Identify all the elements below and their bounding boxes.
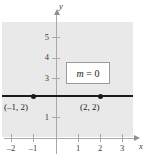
x-axis-label: x	[139, 141, 143, 151]
y-tick-mark	[52, 37, 60, 38]
x-tick-mark	[33, 134, 34, 142]
y-axis-line	[56, 14, 57, 154]
y-tick-mark	[52, 58, 60, 59]
slope-variable: m	[77, 68, 84, 79]
data-point-label: (–1, 2)	[4, 102, 28, 112]
slope-value: = 0	[84, 68, 100, 79]
y-tick-label: 1	[37, 113, 49, 122]
x-tick-mark	[100, 134, 101, 142]
y-tick-label: 5	[37, 33, 49, 42]
y-tick-label: 3	[37, 74, 49, 83]
y-tick-mark	[52, 117, 60, 118]
slope-annotation-text: m = 0	[77, 68, 100, 79]
x-tick-mark	[122, 134, 123, 142]
function-line	[2, 95, 133, 97]
x-tick-label: –2	[4, 144, 18, 153]
x-tick-mark	[78, 134, 79, 142]
data-point-label: (2, 2)	[80, 102, 100, 112]
x-tick-mark	[11, 134, 12, 142]
x-tick-label: 1	[71, 144, 85, 153]
x-tick-label: 2	[93, 144, 107, 153]
x-tick-label: 3	[115, 144, 129, 153]
y-tick-label: 4	[37, 53, 49, 62]
graph-figure: y x 5 4 3 1 –2 –1 1 2 3 (–1, 2) (2, 2) m…	[0, 0, 147, 160]
x-axis-line	[4, 138, 136, 139]
y-tick-mark	[52, 78, 60, 79]
data-point	[31, 94, 36, 99]
data-point	[98, 94, 103, 99]
y-axis-label: y	[59, 1, 63, 11]
x-tick-label: –1	[26, 144, 40, 153]
slope-annotation-box: m = 0	[66, 62, 110, 84]
